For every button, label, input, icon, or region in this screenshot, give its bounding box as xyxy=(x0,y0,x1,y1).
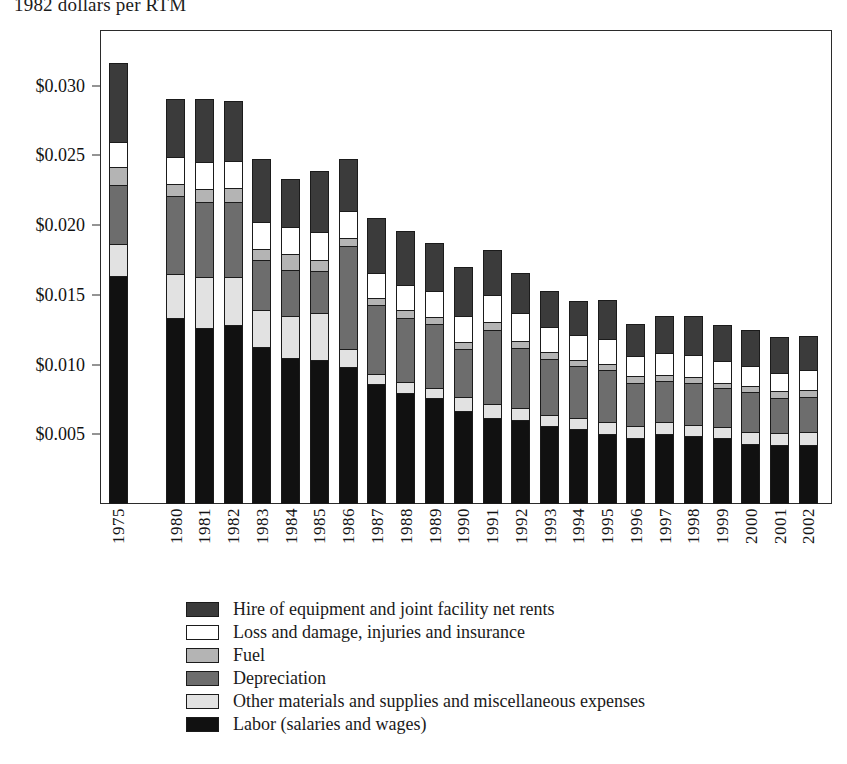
bar-segment xyxy=(310,360,329,504)
x-axis-label-1995: 1995 xyxy=(598,508,618,544)
bar-1996 xyxy=(626,324,645,504)
legend-label: Loss and damage, injuries and insurance xyxy=(233,622,525,643)
bar-1989 xyxy=(425,243,444,504)
bar-segment xyxy=(195,189,214,202)
bar-segment xyxy=(655,434,674,504)
legend-item[interactable]: Fuel xyxy=(186,644,826,667)
legend-swatch-icon xyxy=(186,602,219,617)
bar-segment xyxy=(252,347,271,504)
legend-item[interactable]: Other materials and supplies and miscell… xyxy=(186,690,826,713)
x-axis-label-1986: 1986 xyxy=(339,508,359,544)
bar-2001 xyxy=(770,337,789,504)
bar-segment xyxy=(741,432,760,445)
x-axis-label-1984: 1984 xyxy=(282,508,302,544)
legend-label: Hire of equipment and joint facility net… xyxy=(233,599,554,620)
bar-segment xyxy=(224,101,243,161)
bar-segment xyxy=(598,339,617,364)
legend-label: Fuel xyxy=(233,645,265,666)
y-axis-tick-label: $0.025 xyxy=(36,145,86,166)
bar-segment xyxy=(339,349,358,367)
x-axis-label-1988: 1988 xyxy=(397,508,417,544)
bar-1994 xyxy=(569,301,588,505)
x-axis: 1975198019811982198319841985198619871988… xyxy=(100,506,832,586)
bar-segment xyxy=(109,167,128,184)
x-axis-label-1980: 1980 xyxy=(167,508,187,544)
y-axis: $0.005$0.010$0.015$0.020$0.025$0.030 xyxy=(0,0,100,534)
bar-segment xyxy=(252,260,271,310)
bar-segment xyxy=(109,142,128,168)
bar-segment xyxy=(109,276,128,504)
x-axis-label-1985: 1985 xyxy=(310,508,330,544)
bar-segment xyxy=(483,322,502,330)
bar-segment xyxy=(396,231,415,285)
bar-segment xyxy=(770,391,789,398)
legend-label: Depreciation xyxy=(233,668,326,689)
bar-segment xyxy=(281,270,300,316)
bar-segment xyxy=(483,404,502,417)
bar-segment xyxy=(655,353,674,375)
bar-segment xyxy=(713,361,732,383)
bar-segment xyxy=(109,244,128,276)
bar-segment xyxy=(367,218,386,274)
bar-1990 xyxy=(454,267,473,504)
bar-1987 xyxy=(367,218,386,504)
bar-segment xyxy=(310,313,329,359)
bar-segment xyxy=(540,291,559,327)
bar-segment xyxy=(569,366,588,418)
x-axis-label-1987: 1987 xyxy=(368,508,388,544)
bar-segment xyxy=(540,415,559,426)
bar-segment xyxy=(367,305,386,374)
bar-segment xyxy=(166,318,185,504)
bar-segment xyxy=(511,313,530,341)
bar-segment xyxy=(224,325,243,504)
bar-segment xyxy=(281,358,300,504)
bar-segment xyxy=(483,295,502,322)
legend-swatch-icon xyxy=(186,717,219,732)
bar-segment xyxy=(770,433,789,445)
chart-legend: Hire of equipment and joint facility net… xyxy=(186,598,826,736)
legend-item[interactable]: Labor (salaries and wages) xyxy=(186,713,826,736)
y-axis-tick-label: $0.015 xyxy=(36,284,86,305)
bar-2002 xyxy=(799,336,818,504)
bar-segment xyxy=(626,426,645,439)
bar-segment xyxy=(310,271,329,313)
bar-segment xyxy=(713,388,732,426)
bar-segment xyxy=(109,185,128,244)
bar-segment xyxy=(770,373,789,391)
bar-segment xyxy=(339,367,358,504)
bar-segment xyxy=(799,336,818,370)
bar-1982 xyxy=(224,101,243,504)
x-axis-label-1981: 1981 xyxy=(195,508,215,544)
legend-swatch-icon xyxy=(186,694,219,709)
bar-segment xyxy=(655,381,674,421)
x-axis-label-1999: 1999 xyxy=(713,508,733,544)
legend-item[interactable]: Hire of equipment and joint facility net… xyxy=(186,598,826,621)
bar-1999 xyxy=(713,325,732,504)
bar-segment xyxy=(741,366,760,386)
legend-swatch-icon xyxy=(186,648,219,663)
bar-1984 xyxy=(281,179,300,504)
bar-segment xyxy=(252,222,271,249)
bar-segment xyxy=(540,426,559,504)
legend-item[interactable]: Depreciation xyxy=(186,667,826,690)
bars-layer xyxy=(100,30,832,504)
bar-segment xyxy=(799,445,818,504)
bar-2000 xyxy=(741,330,760,504)
bar-segment xyxy=(425,398,444,504)
x-axis-label-1997: 1997 xyxy=(656,508,676,544)
bar-segment xyxy=(598,300,617,339)
bar-segment xyxy=(425,388,444,398)
x-axis-label-1998: 1998 xyxy=(684,508,704,544)
bar-segment xyxy=(684,316,703,355)
x-axis-label-1996: 1996 xyxy=(627,508,647,544)
bar-segment xyxy=(713,427,732,439)
bar-segment xyxy=(483,250,502,295)
bar-segment xyxy=(626,324,645,355)
bar-segment xyxy=(569,429,588,504)
bar-segment xyxy=(367,374,386,384)
bar-segment xyxy=(741,392,760,431)
bar-segment xyxy=(598,370,617,422)
legend-item[interactable]: Loss and damage, injuries and insurance xyxy=(186,621,826,644)
bar-segment xyxy=(396,285,415,311)
bar-segment xyxy=(799,390,818,397)
